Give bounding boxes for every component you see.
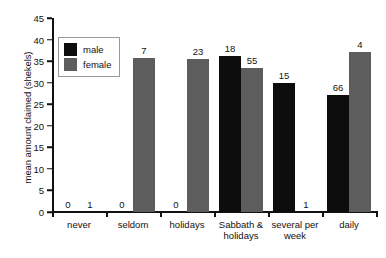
x-axis-tick	[214, 212, 216, 217]
y-axis-tick-label: 0	[39, 208, 44, 218]
bar-male-daily	[327, 95, 349, 212]
x-axis-tick	[268, 212, 270, 217]
x-axis-tick	[376, 212, 378, 217]
bar-value-label: 4	[343, 40, 377, 50]
bar-value-label: 1	[289, 200, 323, 210]
x-axis-category-label: holidays	[160, 219, 214, 230]
y-axis-tick-label: 20	[33, 121, 44, 131]
legend-swatch-female-icon	[64, 58, 77, 71]
bar-value-label: 7	[127, 46, 161, 56]
bar-value-label: 55	[235, 56, 269, 66]
x-axis-category-label: never	[52, 219, 106, 230]
x-axis-category-label: several per week	[268, 219, 322, 241]
bar-chart: mean amount claimed (shekels) 0510152025…	[0, 0, 386, 258]
x-axis-category-label: Sabbath & holidays	[214, 219, 268, 241]
legend-swatch-male-icon	[64, 43, 77, 56]
x-axis-tick	[106, 212, 108, 217]
x-axis-tick	[52, 212, 54, 217]
x-axis-category-label: seldom	[106, 219, 160, 230]
y-axis-tick	[47, 39, 52, 41]
legend-item-female: female	[64, 57, 112, 72]
bar-value-label: 23	[181, 47, 215, 57]
y-axis-tick-label: 35	[33, 57, 44, 67]
y-axis-tick-label: 45	[33, 14, 44, 24]
y-axis-title: mean amount claimed (shekels)	[22, 33, 33, 203]
x-axis-tick	[322, 212, 324, 217]
legend-item-male: male	[64, 42, 112, 57]
chart-legend: male female	[58, 37, 120, 77]
y-axis-tick	[47, 125, 52, 127]
y-axis-tick-label: 25	[33, 100, 44, 110]
y-axis-tick	[47, 60, 52, 62]
bar-value-label: 18	[213, 44, 247, 54]
legend-label-male: male	[83, 45, 104, 55]
y-axis-tick	[47, 147, 52, 149]
y-axis-tick	[47, 17, 52, 19]
y-axis-tick	[47, 168, 52, 170]
bar-value-label: 1	[73, 200, 107, 210]
bar-female-daily	[349, 52, 371, 212]
y-axis-tick-label: 15	[33, 143, 44, 153]
y-axis-tick	[47, 190, 52, 192]
bar-female-seldom	[133, 58, 155, 212]
y-axis-tick-label: 30	[33, 78, 44, 88]
legend-label-female: female	[83, 60, 112, 70]
bar-male-sabbath-holidays	[219, 56, 241, 212]
y-axis-tick-label: 10	[33, 164, 44, 174]
y-axis-tick	[47, 82, 52, 84]
bar-value-label: 15	[267, 71, 301, 81]
bar-female-sabbath-holidays	[241, 68, 263, 212]
x-axis-category-label: daily	[322, 219, 376, 230]
y-axis-tick-label: 40	[33, 35, 44, 45]
bar-male-several-per-week	[273, 83, 295, 212]
bar-female-holidays	[187, 59, 209, 212]
y-axis-tick-label: 5	[39, 186, 44, 196]
y-axis-tick	[47, 103, 52, 105]
x-axis-tick	[160, 212, 162, 217]
